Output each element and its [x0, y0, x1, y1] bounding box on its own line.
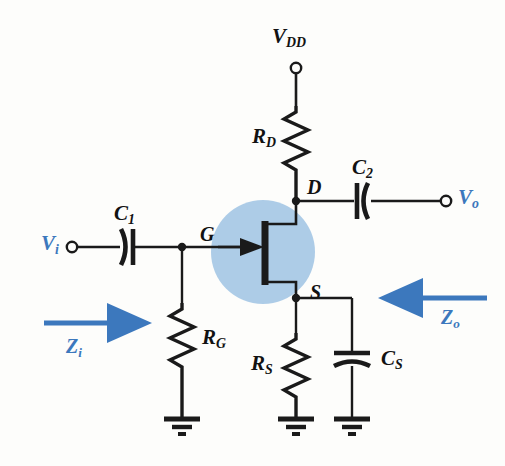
capacitor-c2-label: C2	[352, 157, 373, 178]
circuit-diagram: VDD RD C2 D Vo C1 Vi G S Zo Zi RG RS CS	[0, 0, 505, 466]
capacitor-cs-label: CS	[381, 348, 403, 369]
output-terminal	[441, 196, 451, 206]
capacitor-cs	[334, 353, 370, 418]
resistor-rs	[284, 333, 308, 418]
node-label-drain: D	[307, 177, 321, 197]
input-terminal	[67, 242, 120, 252]
ground-symbol-rg	[164, 419, 200, 434]
ground-symbol-cs	[334, 419, 370, 434]
resistor-rg-label: RG	[202, 327, 226, 348]
zo-label: Zo	[441, 307, 460, 327]
node-label-source: S	[310, 282, 321, 302]
resistor-rd	[284, 106, 308, 201]
input-label: Vi	[41, 233, 59, 254]
ground-symbol-rs	[278, 419, 314, 434]
schematic-canvas	[0, 0, 505, 466]
output-label: Vo	[458, 187, 479, 208]
resistor-rd-label: RD	[252, 126, 276, 147]
supply-terminal	[291, 63, 301, 106]
supply-label: VDD	[272, 26, 306, 47]
capacitor-c1-label: C1	[114, 203, 135, 224]
resistor-rg	[170, 303, 194, 418]
resistor-rs-label: RS	[251, 353, 273, 374]
drain-node-wire	[292, 197, 354, 205]
gate-junction-node	[178, 243, 186, 303]
capacitor-c2	[357, 183, 441, 219]
source-node-wire	[292, 294, 352, 352]
zi-label: Zi	[66, 336, 82, 356]
node-label-gate: G	[200, 224, 214, 244]
